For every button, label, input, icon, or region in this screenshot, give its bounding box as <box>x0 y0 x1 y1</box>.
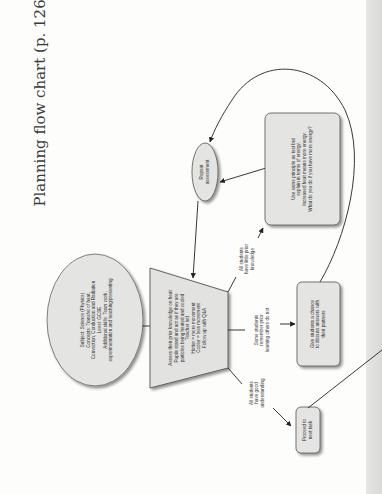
subject-line: experimentation and teaching/presenting <box>108 279 114 362</box>
discuss-line: their partners <box>321 310 327 337</box>
page-title: Planning flow chart (p. 126) <box>30 0 50 200</box>
energy-line: What do you do if you have more energy? <box>308 126 314 211</box>
subject-node: Subject: Science (Physics) Concepts: Tra… <box>73 270 121 370</box>
connector-repeat-assess <box>193 201 198 278</box>
energy-node: Use same principle as test but explain i… <box>287 119 317 219</box>
edge-label-good-understanding: All students have good understanding <box>248 372 266 414</box>
repeat-line: assessment <box>205 160 211 185</box>
proceed-node: Proceed to next task <box>302 410 314 450</box>
edge-label-line: understanding <box>260 378 265 407</box>
connector-assess-good <box>228 368 242 384</box>
flowchart-canvas <box>0 0 382 494</box>
discuss-node: Give students a chance to discuss answer… <box>309 289 327 359</box>
edge-label-line: knowledge <box>250 248 255 270</box>
connector-little-energy <box>258 228 263 238</box>
edge-label-line: learning others do not <box>265 308 270 352</box>
proceed-line: next task <box>308 421 314 439</box>
connector-energy-repeat <box>220 168 266 182</box>
connector-good-proceed <box>273 408 291 426</box>
edge-label-some-remember: Some students remember prior learning ot… <box>253 302 271 358</box>
edge-label-little-knowledge: All students have little prior knowledge <box>238 237 256 281</box>
assess-line: Follow up with Q&A <box>202 308 208 348</box>
repeat-node: Repeat assessment <box>199 152 211 192</box>
connector-assess-little <box>228 277 236 292</box>
assess-node: Assess their prior knowledge on heat Pup… <box>164 280 212 376</box>
